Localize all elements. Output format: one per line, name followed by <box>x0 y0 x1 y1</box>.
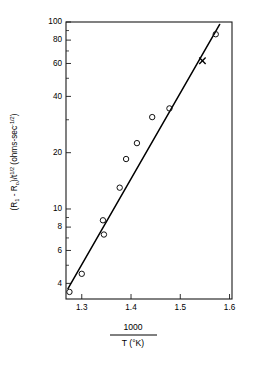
fit-line <box>68 24 220 288</box>
y-tick-label: 6 <box>57 246 62 255</box>
y-tick-label: 20 <box>53 148 63 157</box>
figure-container: 4681020406080100 1.31.41.51.6 (R1 - Ro)/… <box>0 0 261 367</box>
data-point-circle <box>100 218 105 223</box>
data-point-circle <box>67 289 72 294</box>
x-tick-label: 1.3 <box>76 303 88 312</box>
data-point-circle <box>150 114 155 119</box>
y-axis-title: (R1 - Ro)/t1/2 (ohms-sec-1/2) <box>9 113 20 210</box>
y-tick-label: 8 <box>57 222 62 231</box>
x-tick-label: 1.4 <box>125 303 137 312</box>
x-tick-label: 1.6 <box>224 303 236 312</box>
y-tick-label: 100 <box>48 17 62 26</box>
svg-text:(R1 - Ro)/t1/2 (ohms-sec-1/2): (R1 - Ro)/t1/2 (ohms-sec-1/2) <box>9 113 20 210</box>
y-tick-label: 40 <box>53 92 63 101</box>
y-tick-label: 80 <box>53 35 63 44</box>
data-point-circle <box>134 140 139 145</box>
semilog-scatter-chart: 4681020406080100 1.31.41.51.6 (R1 - Ro)/… <box>0 0 261 367</box>
data-point-circle <box>123 156 128 161</box>
y-tick-label: 10 <box>53 204 63 213</box>
data-point-circle <box>101 232 106 237</box>
data-point-x <box>199 58 205 64</box>
plot-frame <box>66 22 232 299</box>
data-points <box>67 32 219 295</box>
y-axis: 4681020406080100 <box>48 17 71 287</box>
data-point-circle <box>117 185 122 190</box>
y-tick-label: 60 <box>53 59 63 68</box>
x-axis-title: 1000 T (°K) <box>110 322 157 348</box>
y-tick-label: 4 <box>57 279 62 288</box>
data-point-circle <box>79 271 84 276</box>
x-axis-title-numerator: 1000 <box>123 322 142 332</box>
x-axis: 1.31.41.51.6 <box>76 294 236 312</box>
x-tick-label: 1.5 <box>175 303 187 312</box>
x-axis-title-denominator: T (°K) <box>122 338 145 348</box>
